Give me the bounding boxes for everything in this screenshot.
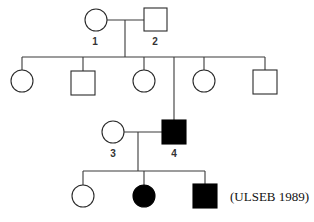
individual-gen2-1-female: [11, 70, 33, 92]
individual-4-male-affected: [162, 120, 186, 144]
pedigree-chart: 1 2 3 4 (ULSEB 1989): [0, 0, 314, 222]
individual-gen3-3-male-affected: [193, 184, 217, 208]
individual-gen2-6-male: [253, 70, 277, 94]
individual-gen2-5-female: [193, 70, 215, 92]
individual-2-male: [144, 8, 167, 31]
individual-3-female: [102, 121, 124, 143]
label-2: 2: [152, 36, 158, 47]
individual-gen3-2-female-affected: [133, 185, 155, 207]
citation: (ULSEB 1989): [230, 189, 309, 204]
label-1: 1: [92, 36, 98, 47]
individual-gen3-1-female: [72, 185, 94, 207]
label-4: 4: [171, 148, 177, 159]
individual-gen2-3-female: [133, 70, 155, 92]
individual-1-female: [85, 9, 107, 31]
individual-gen2-2-male: [71, 71, 95, 95]
label-3: 3: [110, 148, 116, 159]
